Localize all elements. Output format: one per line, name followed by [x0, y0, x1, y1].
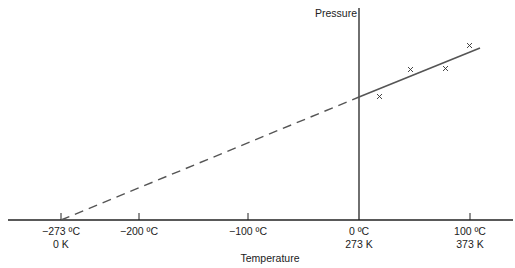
tick-label-minus100: −100 ºC: [229, 225, 267, 238]
tick-label-100: 100 ºC373 K: [454, 225, 486, 251]
tick-label-minus200: −200 ºC: [120, 225, 158, 238]
extrapolation-line: [61, 97, 359, 220]
x-axis-label: Temperature: [241, 252, 300, 265]
tick-label-minus273: −273 ºC0 K: [42, 225, 80, 251]
best-fit-line: [359, 48, 480, 97]
x-ticks: [61, 213, 470, 220]
y-axis-label: Pressure: [315, 7, 357, 20]
tick-label-0: 0 ºC273 K: [345, 225, 372, 251]
